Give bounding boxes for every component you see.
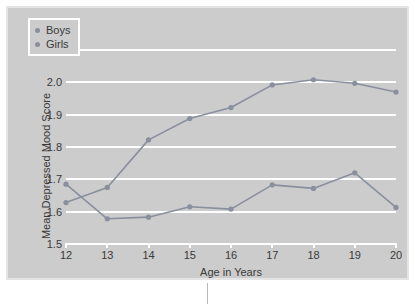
chart-canvas: Mean Depressed Mood Score 1.51.61.71.81.… xyxy=(6,6,409,280)
x-tick-mark xyxy=(65,243,67,248)
x-tick-label: 14 xyxy=(142,249,154,261)
data-point xyxy=(63,182,68,187)
data-point xyxy=(311,77,316,82)
y-tick-label: 1.9 xyxy=(47,109,62,121)
x-tick-label: 20 xyxy=(390,249,402,261)
x-axis-tick-labels: 121314151617181920 xyxy=(66,249,396,265)
data-point xyxy=(228,206,233,211)
x-tick-mark xyxy=(189,243,191,248)
x-tick-label: 17 xyxy=(266,249,278,261)
x-tick-label: 15 xyxy=(184,249,196,261)
x-tick-label: 19 xyxy=(349,249,361,261)
y-tick-label: 2.0 xyxy=(47,76,62,88)
data-point xyxy=(270,182,275,187)
x-axis-title: Age in Years xyxy=(66,266,396,278)
y-tick-label: 1.6 xyxy=(47,206,62,218)
data-point xyxy=(105,185,110,190)
data-point xyxy=(105,216,110,221)
legend-item-boys: Boys xyxy=(35,23,70,37)
x-tick-mark xyxy=(313,243,315,248)
page-margin-tick xyxy=(207,283,208,304)
series-line-girls xyxy=(66,80,396,203)
y-tick-label: 1.8 xyxy=(47,141,62,153)
legend-item-girls: Girls xyxy=(35,37,70,51)
data-point xyxy=(63,200,68,205)
x-tick-label: 18 xyxy=(307,249,319,261)
chart-legend: BoysGirls xyxy=(28,18,80,56)
x-tick-label: 12 xyxy=(60,249,72,261)
legend-marker-icon xyxy=(35,42,40,47)
y-axis-tick-labels: 1.51.61.71.81.92.02.1 xyxy=(32,50,62,244)
data-point xyxy=(352,81,357,86)
data-point xyxy=(187,204,192,209)
x-tick-mark xyxy=(148,243,150,248)
data-point xyxy=(352,170,357,175)
y-tick-label: 1.7 xyxy=(47,173,62,185)
x-tick-label: 13 xyxy=(101,249,113,261)
legend-marker-icon xyxy=(35,28,40,33)
series-layer xyxy=(66,50,396,244)
data-point xyxy=(228,105,233,110)
legend-label: Boys xyxy=(46,23,70,37)
x-tick-mark xyxy=(106,243,108,248)
data-point xyxy=(393,89,398,94)
x-tick-label: 16 xyxy=(225,249,237,261)
data-point xyxy=(187,116,192,121)
x-tick-mark xyxy=(395,243,397,248)
series-line-boys xyxy=(66,173,396,219)
data-point xyxy=(146,137,151,142)
data-point xyxy=(311,186,316,191)
x-tick-mark xyxy=(230,243,232,248)
x-tick-mark xyxy=(354,243,356,248)
data-point xyxy=(146,215,151,220)
plot-area xyxy=(66,50,396,244)
x-tick-mark xyxy=(271,243,273,248)
data-point xyxy=(393,205,398,210)
legend-label: Girls xyxy=(46,37,69,51)
chart-figure: Mean Depressed Mood Score 1.51.61.71.81.… xyxy=(0,0,415,305)
data-point xyxy=(270,82,275,87)
